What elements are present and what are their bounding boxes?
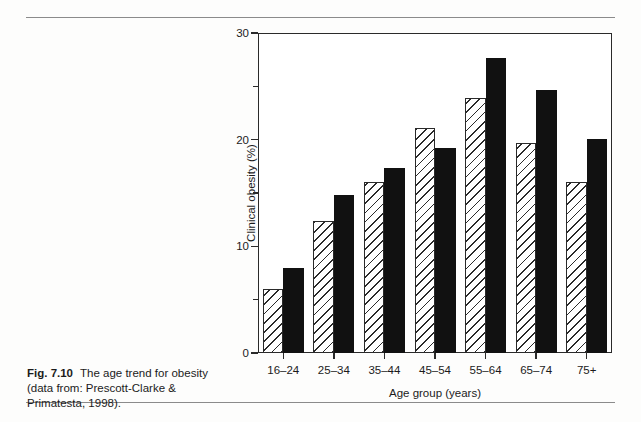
bar-men-16-24 <box>263 289 284 353</box>
y-axis-minor-tick <box>253 299 258 301</box>
x-axis-tick <box>384 353 386 359</box>
bar-women-75+ <box>587 139 608 353</box>
y-axis-label: 20 <box>236 134 249 146</box>
x-axis-tick <box>333 353 335 359</box>
y-axis-tick <box>251 352 258 354</box>
y-axis-minor-tick <box>253 86 258 88</box>
x-axis-title: Age group (years) <box>389 387 481 399</box>
page-rule-top <box>26 17 615 18</box>
bar-women-55-64 <box>486 58 507 353</box>
y-axis-label: 30 <box>236 27 249 39</box>
bar-men-75+ <box>566 182 587 353</box>
y-axis-tick <box>251 246 258 248</box>
x-axis-label: 45–54 <box>419 364 451 376</box>
bar-chart: Clinical obesity (%) Age group (years) 0… <box>258 33 612 353</box>
bar-men-25-34 <box>313 221 334 353</box>
bar-women-65-74 <box>536 90 557 353</box>
x-axis-label: 55–64 <box>470 364 502 376</box>
x-axis-tick <box>485 353 487 359</box>
figure-caption: Fig. 7.10The age trend for obesity (data… <box>27 366 232 411</box>
x-axis-label: 65–74 <box>520 364 552 376</box>
figure-number: Fig. 7.10 <box>27 367 73 379</box>
x-axis-label: 16–24 <box>267 364 299 376</box>
x-axis-tick <box>434 353 436 359</box>
bar-women-16-24 <box>283 268 304 353</box>
x-axis-tick <box>535 353 537 359</box>
y-axis-tick <box>251 32 258 34</box>
x-axis-label: 35–44 <box>368 364 400 376</box>
bar-women-45-54 <box>435 148 456 353</box>
bar-women-35-44 <box>384 168 405 353</box>
x-axis-label: 25–34 <box>318 364 350 376</box>
figure-page: Fig. 7.10The age trend for obesity (data… <box>0 0 641 422</box>
y-axis-label: 0 <box>243 347 249 359</box>
bar-men-45-54 <box>415 128 436 353</box>
bar-men-35-44 <box>364 182 385 353</box>
bar-women-25-34 <box>334 195 355 353</box>
x-axis-label: 75+ <box>577 364 597 376</box>
y-axis-tick <box>251 139 258 141</box>
x-axis-tick <box>283 353 285 359</box>
y-axis-label: 10 <box>236 240 249 252</box>
y-axis-minor-tick <box>253 192 258 194</box>
bar-men-65-74 <box>516 143 537 353</box>
x-axis-tick <box>586 353 588 359</box>
bar-men-55-64 <box>465 98 486 353</box>
